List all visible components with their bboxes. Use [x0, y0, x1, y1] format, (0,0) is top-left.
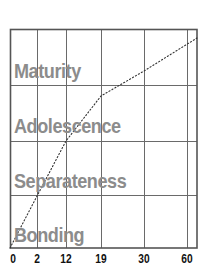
x-tick-label: 12	[60, 253, 71, 265]
x-tick-label: 30	[138, 253, 149, 265]
stage-label-adolescence: Adolescence	[14, 115, 121, 136]
x-tick-label: 19	[95, 253, 106, 265]
x-tick-label: 0	[10, 253, 16, 265]
stage-label-bonding: Bonding	[14, 224, 84, 245]
x-tick-label: 60	[181, 253, 192, 265]
x-tick-label: 2	[34, 253, 40, 265]
stage-label-separateness: Separateness	[14, 170, 126, 191]
stage-label-maturity: Maturity	[14, 60, 81, 81]
